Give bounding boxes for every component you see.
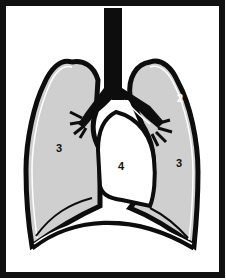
lungs-diagram: 2 3 3 4 (0, 0, 226, 280)
label-3-left: 3 (56, 142, 62, 154)
label-2: 2 (177, 92, 183, 104)
trachea (102, 8, 124, 92)
left-lung (26, 61, 100, 246)
label-3-right: 3 (176, 157, 182, 169)
label-4: 4 (118, 160, 125, 172)
diagram-frame: 2 3 3 4 (0, 0, 226, 280)
